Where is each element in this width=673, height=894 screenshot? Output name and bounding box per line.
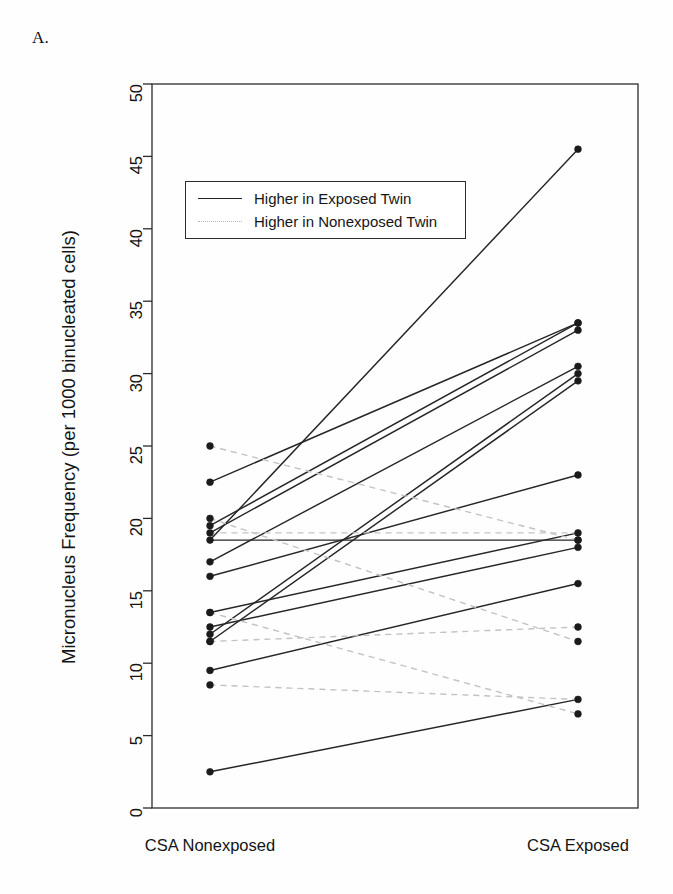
pair-line	[210, 323, 578, 526]
pair-line	[210, 699, 578, 771]
legend: Higher in Exposed Twin Higher in Nonexpo…	[185, 181, 466, 239]
legend-label-exposed: Higher in Exposed Twin	[254, 190, 411, 207]
y-tick-label: 50	[127, 84, 146, 102]
data-point-exposed	[575, 544, 582, 551]
pair-line	[210, 518, 578, 641]
y-tick-label: 40	[127, 229, 146, 247]
plot-area	[0, 0, 673, 894]
y-tick-label: 20	[127, 518, 146, 536]
legend-line-solid-icon	[198, 198, 242, 199]
y-tick-label: 5	[127, 736, 146, 745]
y-tick-label: 35	[127, 301, 146, 319]
x-tick-label: CSA Exposed	[527, 836, 629, 855]
data-point-nonexposed	[207, 558, 214, 565]
data-point-nonexposed	[207, 667, 214, 674]
y-tick-label: 15	[127, 591, 146, 609]
data-point-exposed	[575, 472, 582, 479]
data-point-exposed	[575, 529, 582, 536]
data-point-nonexposed	[207, 631, 214, 638]
data-point-nonexposed	[207, 768, 214, 775]
series-points-group	[207, 146, 582, 775]
legend-label-nonexposed: Higher in Nonexposed Twin	[254, 213, 437, 230]
series-lines-group	[210, 149, 578, 772]
data-point-exposed	[575, 327, 582, 334]
data-point-exposed	[575, 537, 582, 544]
pair-line	[210, 533, 578, 613]
y-tick-label: 45	[127, 156, 146, 174]
data-point-nonexposed	[207, 609, 214, 616]
data-point-exposed	[575, 624, 582, 631]
data-point-exposed	[575, 696, 582, 703]
x-tick-label: CSA Nonexposed	[145, 836, 275, 855]
data-point-nonexposed	[207, 515, 214, 522]
data-point-nonexposed	[207, 573, 214, 580]
y-tick-label: 0	[127, 808, 146, 817]
data-point-nonexposed	[207, 638, 214, 645]
data-point-nonexposed	[207, 624, 214, 631]
data-point-nonexposed	[207, 522, 214, 529]
legend-entry-exposed: Higher in Exposed Twin	[198, 186, 411, 210]
data-point-exposed	[575, 370, 582, 377]
data-point-exposed	[575, 363, 582, 370]
legend-line-dotted-icon	[198, 221, 242, 222]
pair-line	[210, 330, 578, 533]
pair-line	[210, 547, 578, 627]
data-point-exposed	[575, 146, 582, 153]
legend-entry-nonexposed: Higher in Nonexposed Twin	[198, 209, 437, 233]
pair-line	[210, 381, 578, 642]
data-point-nonexposed	[207, 443, 214, 450]
figure-root: A. Micronucleus Frequency (per 1000 binu…	[0, 0, 673, 894]
data-point-exposed	[575, 710, 582, 717]
data-point-exposed	[575, 580, 582, 587]
y-tick-label: 30	[127, 374, 146, 392]
y-tick-label: 10	[127, 663, 146, 681]
pair-line	[210, 323, 578, 482]
data-point-exposed	[575, 320, 582, 327]
data-point-exposed	[575, 638, 582, 645]
data-point-nonexposed	[207, 682, 214, 689]
data-point-exposed	[575, 377, 582, 384]
y-tick-label: 25	[127, 446, 146, 464]
pair-line	[210, 374, 578, 635]
data-point-nonexposed	[207, 529, 214, 536]
pair-line	[210, 685, 578, 699]
data-point-nonexposed	[207, 537, 214, 544]
pair-line	[210, 627, 578, 641]
data-point-nonexposed	[207, 479, 214, 486]
